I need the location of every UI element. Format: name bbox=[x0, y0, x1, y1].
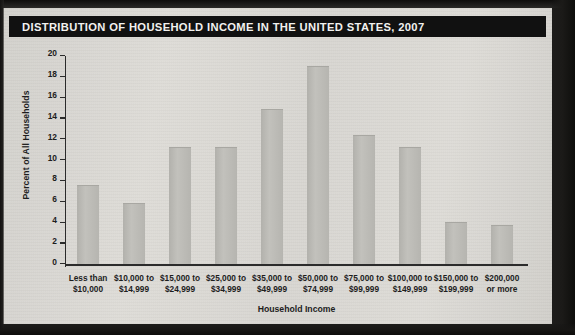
chart-title: DISTRIBUTION OF HOUSEHOLD INCOME IN THE … bbox=[9, 21, 425, 33]
y-axis-tick: 10 bbox=[60, 159, 65, 160]
scanned-page: DISTRIBUTION OF HOUSEHOLD INCOME IN THE … bbox=[0, 0, 575, 335]
y-axis-tick: 0 bbox=[60, 263, 65, 264]
bar bbox=[169, 147, 191, 265]
y-axis-tick: 6 bbox=[60, 201, 65, 202]
y-axis-tick-label: 14 bbox=[48, 111, 57, 121]
scan-edge-bottom bbox=[0, 324, 575, 335]
bar bbox=[77, 185, 99, 264]
y-axis-title: Percent of All Households bbox=[21, 65, 31, 225]
y-axis-tick: 2 bbox=[60, 242, 65, 243]
y-axis-tick-label: 16 bbox=[48, 90, 57, 100]
y-axis-line bbox=[65, 56, 66, 267]
bar bbox=[307, 66, 329, 264]
plot-area: 02468101214161820 bbox=[65, 56, 525, 266]
scan-edge-top bbox=[0, 0, 575, 8]
y-axis-tick: 12 bbox=[60, 138, 65, 139]
y-axis-tick-label: 10 bbox=[48, 153, 57, 163]
y-axis-tick-label: 8 bbox=[52, 173, 57, 183]
bar bbox=[215, 147, 237, 265]
x-axis-label-line: or more bbox=[472, 284, 532, 295]
bar bbox=[399, 147, 421, 265]
x-axis-label-line: $200,000 bbox=[472, 273, 532, 284]
y-axis-tick: 16 bbox=[60, 97, 65, 98]
x-axis-line bbox=[65, 264, 528, 266]
y-axis-tick-label: 2 bbox=[52, 236, 57, 246]
bar bbox=[261, 109, 283, 264]
bar bbox=[353, 135, 375, 264]
bar-chart-figure: Percent of All Households 02468101214161… bbox=[9, 42, 546, 320]
bar bbox=[491, 225, 513, 265]
y-axis-tick-label: 12 bbox=[48, 132, 57, 142]
scan-edge-right bbox=[552, 0, 575, 335]
y-axis-tick-label: 6 bbox=[52, 194, 57, 204]
x-axis-title: Household Income bbox=[65, 304, 528, 314]
chart-title-bar: DISTRIBUTION OF HOUSEHOLD INCOME IN THE … bbox=[9, 16, 546, 37]
y-axis-tick: 14 bbox=[60, 117, 65, 118]
bar bbox=[445, 222, 467, 265]
scan-edge-left bbox=[0, 0, 4, 335]
y-axis-tick-label: 4 bbox=[52, 215, 57, 225]
y-axis-tick-label: 18 bbox=[48, 69, 57, 79]
x-axis-label: $200,000or more bbox=[472, 273, 532, 294]
y-axis-tick: 8 bbox=[60, 180, 65, 181]
y-axis-tick-label: 0 bbox=[52, 257, 57, 267]
y-axis-tick: 4 bbox=[60, 222, 65, 223]
y-axis-tick: 18 bbox=[60, 76, 65, 77]
bar bbox=[123, 203, 145, 264]
y-axis-tick-label: 20 bbox=[48, 48, 57, 58]
y-axis-tick: 20 bbox=[60, 55, 65, 56]
